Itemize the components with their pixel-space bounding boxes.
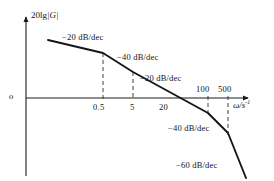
bode-plot-figure: o 20lg|G| ω/s-1 0.5 5 20 100 500 −20 dB/… [0,0,274,181]
origin-label: o [9,92,13,101]
slope-annotation-minus20-second: −20 dB/dec [140,74,182,83]
slope-annotation-minus40-second: −40 dB/dec [168,124,210,133]
tick-label-20: 20 [159,103,168,112]
tick-label-0-5: 0.5 [93,103,105,112]
y-axis-label-magnitude: |G| [47,10,58,20]
x-axis-label: ω/s-1 [233,101,250,110]
tick-label-500: 500 [218,85,232,94]
y-axis-label-prefix: 20lg [31,10,47,20]
y-axis-label: 20lg|G| [31,11,58,20]
tick-label-100: 100 [196,85,210,94]
slope-annotation-minus40-first: −40 dB/dec [117,53,159,62]
x-axis-label-exponent: -1 [245,99,250,105]
x-axis-label-symbol: ω/s [233,100,245,110]
slope-annotation-minus20-first: −20 dB/dec [62,33,104,42]
tick-label-5: 5 [130,103,135,112]
slope-annotation-minus60: −60 dB/dec [176,161,218,170]
bode-plot-canvas [0,0,274,181]
